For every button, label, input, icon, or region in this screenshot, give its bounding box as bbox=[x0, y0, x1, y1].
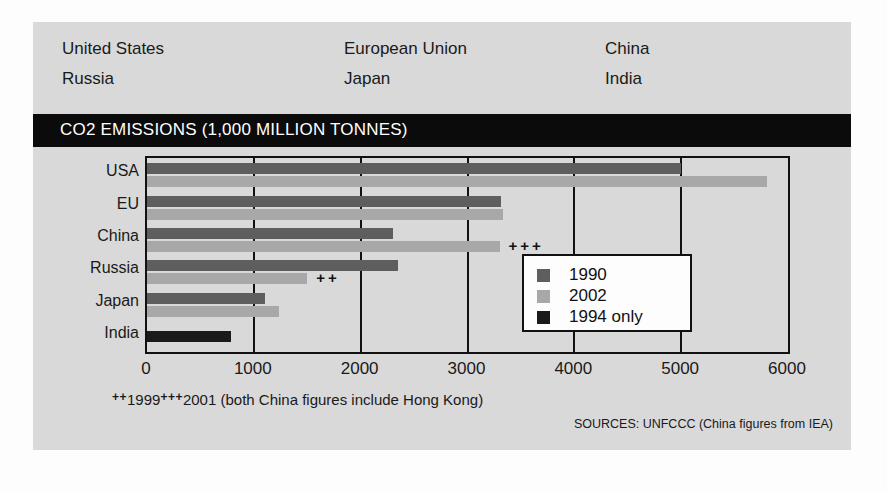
title-band: CO2 EMISSIONS (1,000 MILLION TONNES) bbox=[33, 114, 851, 147]
category-label-china: China bbox=[97, 227, 139, 245]
x-tick-5000: 5000 bbox=[661, 359, 699, 379]
bar-row bbox=[147, 196, 788, 207]
x-tick-3000: 3000 bbox=[448, 359, 486, 379]
bar-row bbox=[147, 228, 788, 239]
category-label-russia: Russia bbox=[90, 259, 139, 277]
header-column-1: United States Russia bbox=[62, 34, 164, 94]
bar-japan-2002 bbox=[147, 306, 279, 317]
chart-page: United States Russia European Union Japa… bbox=[0, 0, 887, 491]
chart-title: CO2 EMISSIONS (1,000 MILLION TONNES) bbox=[60, 120, 408, 140]
category-label-eu: EU bbox=[117, 195, 139, 213]
footnote-year-1999: 1999 bbox=[127, 391, 160, 408]
bar-row bbox=[147, 209, 788, 220]
legend-label: 1994 only bbox=[569, 307, 643, 327]
bar-india-1994 bbox=[147, 331, 231, 342]
annotation-3plus: +++ bbox=[509, 240, 544, 251]
bar-usa-1990 bbox=[147, 163, 681, 174]
bar-eu-2002 bbox=[147, 209, 503, 220]
bar-row: +++ bbox=[147, 241, 788, 252]
x-tick-6000: 6000 bbox=[768, 359, 806, 379]
header-label-european-union: European Union bbox=[344, 34, 467, 64]
legend-item-2002: 2002 bbox=[537, 285, 607, 307]
chart-panel: United States Russia European Union Japa… bbox=[33, 22, 851, 450]
legend-label: 1990 bbox=[569, 265, 607, 285]
category-label-japan: Japan bbox=[95, 292, 139, 310]
bar-usa-2002 bbox=[147, 176, 767, 187]
bar-row bbox=[147, 163, 788, 174]
bar-row bbox=[147, 176, 788, 187]
footnote-year-2001: 2001 bbox=[183, 391, 216, 408]
header-column-2: European Union Japan bbox=[344, 34, 467, 94]
x-tick-1000: 1000 bbox=[234, 359, 272, 379]
x-tick-0: 0 bbox=[141, 359, 150, 379]
legend-label: 2002 bbox=[569, 286, 607, 306]
legend-item-1990: 1990 bbox=[537, 264, 607, 286]
category-label-usa: USA bbox=[106, 162, 139, 180]
bar-eu-1990 bbox=[147, 196, 501, 207]
bar-japan-1990 bbox=[147, 293, 265, 304]
bar-china-1990 bbox=[147, 228, 393, 239]
annotation-2plus: ++ bbox=[316, 272, 340, 283]
footnote: ++1999+++2001 (both China figures includ… bbox=[112, 390, 483, 408]
plot-area: +++++ bbox=[145, 156, 790, 354]
legend-swatch-icon bbox=[537, 290, 550, 303]
header-column-3: China India bbox=[605, 34, 649, 94]
footnote-note-text: (both China figures include Hong Kong) bbox=[216, 391, 483, 408]
x-tick-4000: 4000 bbox=[554, 359, 592, 379]
header-country-labels: United States Russia European Union Japa… bbox=[33, 22, 851, 114]
legend-item-1994-only: 1994 only bbox=[537, 306, 643, 328]
x-tick-2000: 2000 bbox=[341, 359, 379, 379]
footnote-mark-triple-plus: +++ bbox=[160, 390, 183, 404]
chart-legend: 199020021994 only bbox=[522, 254, 692, 332]
header-label-japan: Japan bbox=[344, 64, 467, 94]
category-axis-labels: USAEUChinaRussiaJapanIndia bbox=[33, 156, 139, 354]
bar-russia-2002 bbox=[147, 273, 307, 284]
header-label-russia: Russia bbox=[62, 64, 164, 94]
bar-russia-1990 bbox=[147, 260, 398, 271]
header-label-united-states: United States bbox=[62, 34, 164, 64]
bar-row bbox=[147, 331, 788, 342]
chart-area: USAEUChinaRussiaJapanIndia +++++ 0100020… bbox=[33, 147, 851, 450]
legend-swatch-icon bbox=[537, 311, 550, 324]
x-axis-tick-labels: 0100020003000400050006000 bbox=[33, 359, 851, 383]
footnote-mark-double-plus: ++ bbox=[112, 390, 127, 404]
header-label-china: China bbox=[605, 34, 649, 64]
legend-swatch-icon bbox=[537, 269, 550, 282]
sources-line: SOURCES: UNFCCC (China figures from IEA) bbox=[574, 417, 833, 431]
category-label-india: India bbox=[104, 324, 139, 342]
bar-china-2002 bbox=[147, 241, 500, 252]
header-label-india: India bbox=[605, 64, 649, 94]
